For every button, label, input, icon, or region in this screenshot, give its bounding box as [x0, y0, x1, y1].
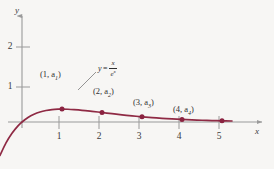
- figure-container: y x 1 2 1 2 3 4 5 (1, a1) (2, a2) (3, a3…: [0, 0, 274, 169]
- function-curve: [0, 109, 232, 155]
- x-tick-label-1: 1: [54, 132, 64, 142]
- point-label-a3-close: ): [151, 97, 154, 107]
- plot-canvas: [0, 0, 274, 169]
- x-tick-label-5: 5: [214, 132, 224, 142]
- x-tick-label-4: 4: [174, 132, 184, 142]
- point-label-a1-close: ): [58, 69, 61, 79]
- point-label-a2-open: (2, a: [93, 86, 108, 96]
- point-label-a1-open: (1, a: [40, 69, 55, 79]
- equation-fraction: x ex: [109, 60, 117, 78]
- data-point-a3: [140, 114, 145, 119]
- y-axis-label: y: [15, 6, 19, 15]
- data-point-a1: [60, 107, 65, 112]
- equation-denominator: ex: [109, 69, 116, 79]
- data-point-a5: [220, 118, 225, 123]
- data-point-a2: [100, 110, 105, 115]
- curve-equation-annotation: y = x ex: [98, 60, 117, 78]
- x-tick-label-2: 2: [94, 132, 104, 142]
- equation-denominator-exponent: x: [114, 69, 116, 74]
- point-label-a2-close: ): [111, 86, 114, 96]
- equation-numerator: x: [111, 60, 116, 68]
- data-point-a4: [180, 117, 185, 122]
- x-tick-label-3: 3: [134, 132, 144, 142]
- point-label-a4: (4, a4): [173, 105, 194, 116]
- point-label-a3: (3, a3): [133, 98, 154, 109]
- point-label-a1: (1, a1): [40, 70, 61, 81]
- equation-equals-sign: =: [103, 65, 108, 73]
- y-tick-label-2: 2: [5, 42, 15, 52]
- equation-lhs: y: [98, 65, 102, 73]
- point-label-a3-open: (3, a: [133, 97, 148, 107]
- point-label-a4-close: ): [191, 104, 194, 114]
- y-tick-label-1: 1: [5, 82, 15, 92]
- x-axis-label: x: [255, 127, 259, 136]
- point-label-a2: (2, a2): [93, 87, 114, 98]
- point-label-a4-open: (4, a: [173, 104, 188, 114]
